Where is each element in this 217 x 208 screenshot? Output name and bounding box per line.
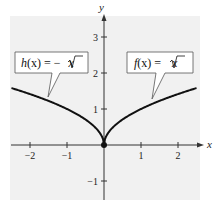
origin-point: [101, 142, 107, 148]
x-tick-label: −1: [62, 150, 73, 161]
x-axis-label: x: [206, 138, 212, 150]
x-axis-arrow-icon: [197, 143, 204, 148]
y-axis-label: y: [98, 1, 104, 13]
plot-background: [10, 16, 200, 200]
callout-f-mid: (x) =: [137, 56, 164, 70]
svg-text:f(x) = x: f(x) = x: [134, 56, 178, 70]
x-tick-label: 1: [139, 150, 144, 161]
callout-h-mid: (x) = −: [27, 56, 61, 70]
x-tick-label: 2: [176, 150, 181, 161]
y-tick-label: −1: [87, 176, 98, 187]
y-tick-label: 2: [93, 68, 98, 79]
y-tick-label: 3: [93, 32, 98, 43]
chart: x y −2−112−1123 h(x) = −x f(x) = x: [0, 0, 217, 208]
callout-f-rad: x: [171, 56, 178, 70]
x-tick-label: −2: [25, 150, 36, 161]
y-tick-label: 1: [93, 104, 98, 115]
